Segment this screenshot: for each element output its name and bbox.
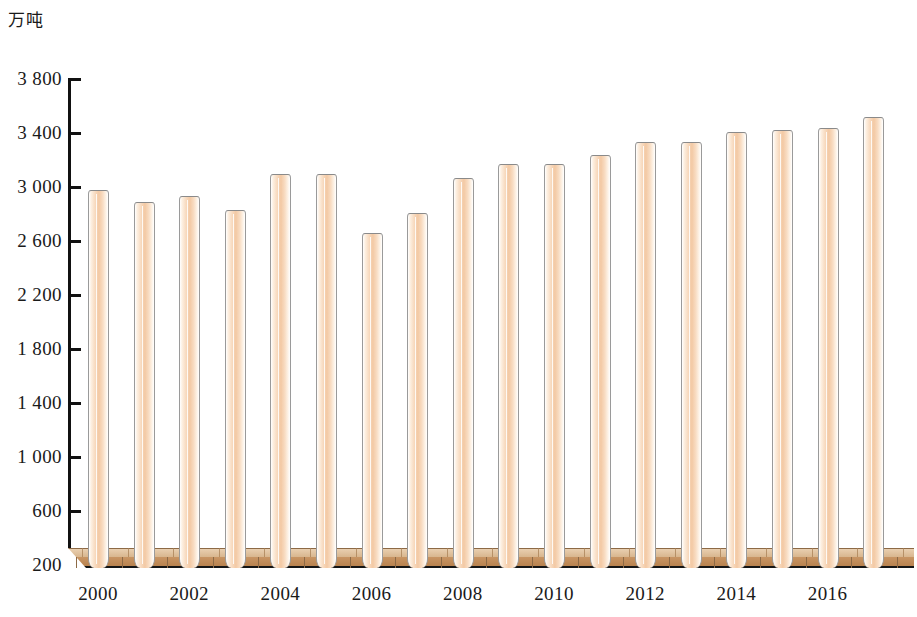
y-axis-tick-label-text: 2 600 xyxy=(2,231,62,250)
x-axis-tick-label: 2002 xyxy=(154,583,224,605)
y-axis-tick-label: 3 800 xyxy=(0,69,62,88)
y-axis-tick xyxy=(68,348,81,351)
y-axis-tick-label-text: 2 200 xyxy=(2,285,62,304)
bar xyxy=(362,233,383,568)
ground-seam-top xyxy=(720,548,721,557)
bar xyxy=(681,142,702,568)
y-axis-tick-label: 600 xyxy=(0,501,62,520)
ground-seam xyxy=(806,557,807,568)
y-axis-tick-label: 2 600 xyxy=(0,231,62,250)
y-axis-tick-label: 1 000 xyxy=(0,447,62,466)
ground-seam-top xyxy=(401,548,402,557)
x-axis-tick-label: 2014 xyxy=(701,583,771,605)
ground-seam xyxy=(532,557,533,568)
y-axis-tick-label-text: 1 400 xyxy=(2,393,62,412)
ground-seam xyxy=(350,557,351,568)
y-axis-tick-label-text: 600 xyxy=(2,501,62,520)
x-axis-tick-label: 2000 xyxy=(63,583,133,605)
ground-seam xyxy=(669,557,670,568)
ground-seam-top xyxy=(447,548,448,557)
y-axis-tick xyxy=(68,240,81,243)
x-axis-tick-label: 2006 xyxy=(337,583,407,605)
ground-seam xyxy=(851,557,852,568)
y-axis-tick-label-text: 3 000 xyxy=(2,177,62,196)
plot-area: 2006001 0001 4001 8002 2002 6003 0003 40… xyxy=(0,0,917,617)
y-axis-tick xyxy=(68,132,81,135)
ground-seam-top xyxy=(264,548,265,557)
x-axis-tick-label: 2012 xyxy=(610,583,680,605)
ground-seam xyxy=(623,557,624,568)
ground-left-bevel xyxy=(68,548,86,568)
y-axis-tick-label: 3 000 xyxy=(0,177,62,196)
ground-seam xyxy=(76,557,77,568)
y-axis-tick-label: 200 xyxy=(0,555,62,574)
bar xyxy=(544,164,565,568)
x-axis-tick-label: 2016 xyxy=(793,583,863,605)
bar xyxy=(225,210,246,568)
ground-seam xyxy=(897,557,898,568)
y-axis-tick xyxy=(68,510,81,513)
ground-seam xyxy=(760,557,761,568)
bar xyxy=(316,174,337,569)
x-axis-tick-label: 2010 xyxy=(519,583,589,605)
bar xyxy=(407,213,428,568)
y-axis-tick-label-text: 200 xyxy=(2,555,62,574)
bar xyxy=(453,178,474,568)
bar xyxy=(590,155,611,568)
ground-seam-top xyxy=(310,548,311,557)
y-axis-tick xyxy=(68,456,81,459)
ground-seam xyxy=(213,557,214,568)
bar xyxy=(498,164,519,568)
bar xyxy=(88,190,109,568)
bar xyxy=(179,196,200,568)
y-axis-tick xyxy=(68,402,81,405)
y-axis-tick-label: 1 800 xyxy=(0,339,62,358)
ground-seam-top xyxy=(812,548,813,557)
ground-seam-top xyxy=(857,548,858,557)
ground-seam-top xyxy=(629,548,630,557)
ground-seam xyxy=(714,557,715,568)
y-axis-line xyxy=(68,78,71,568)
y-axis-tick-label-text: 1 800 xyxy=(2,339,62,358)
ground-seam xyxy=(395,557,396,568)
ground-seam-top xyxy=(584,548,585,557)
ground-seam-top xyxy=(903,548,904,557)
bar xyxy=(635,142,656,568)
bar xyxy=(270,174,291,569)
bar xyxy=(863,117,884,568)
ground-seam-top xyxy=(219,548,220,557)
ground-seam xyxy=(304,557,305,568)
y-axis-tick xyxy=(68,294,81,297)
ground-seam-top xyxy=(766,548,767,557)
ground-seam xyxy=(486,557,487,568)
y-axis-tick xyxy=(68,78,81,81)
ground-seam xyxy=(122,557,123,568)
x-axis-tick-label: 2008 xyxy=(428,583,498,605)
bar xyxy=(134,202,155,568)
bar xyxy=(818,128,839,568)
y-axis-tick xyxy=(68,186,81,189)
bar-chart: 万吨 2006001 0001 4001 8002 2002 6003 0003… xyxy=(0,0,917,617)
y-axis-tick-label: 2 200 xyxy=(0,285,62,304)
ground-seam xyxy=(578,557,579,568)
ground-seam xyxy=(167,557,168,568)
ground-seam-top xyxy=(492,548,493,557)
y-axis-tick-label: 1 400 xyxy=(0,393,62,412)
ground-seam-top xyxy=(128,548,129,557)
ground-seam xyxy=(258,557,259,568)
y-axis-tick-label: 3 400 xyxy=(0,123,62,142)
y-axis-tick-label-text: 3 800 xyxy=(2,69,62,88)
ground-seam-top xyxy=(82,548,83,557)
x-axis-tick-label: 2004 xyxy=(245,583,315,605)
ground-seam-top xyxy=(356,548,357,557)
bar xyxy=(726,132,747,568)
y-axis-tick-label-text: 3 400 xyxy=(2,123,62,142)
bar xyxy=(772,130,793,568)
ground-seam-top xyxy=(538,548,539,557)
ground-seam-top xyxy=(173,548,174,557)
ground-seam xyxy=(441,557,442,568)
ground-seam-top xyxy=(675,548,676,557)
y-axis-tick-label-text: 1 000 xyxy=(2,447,62,466)
